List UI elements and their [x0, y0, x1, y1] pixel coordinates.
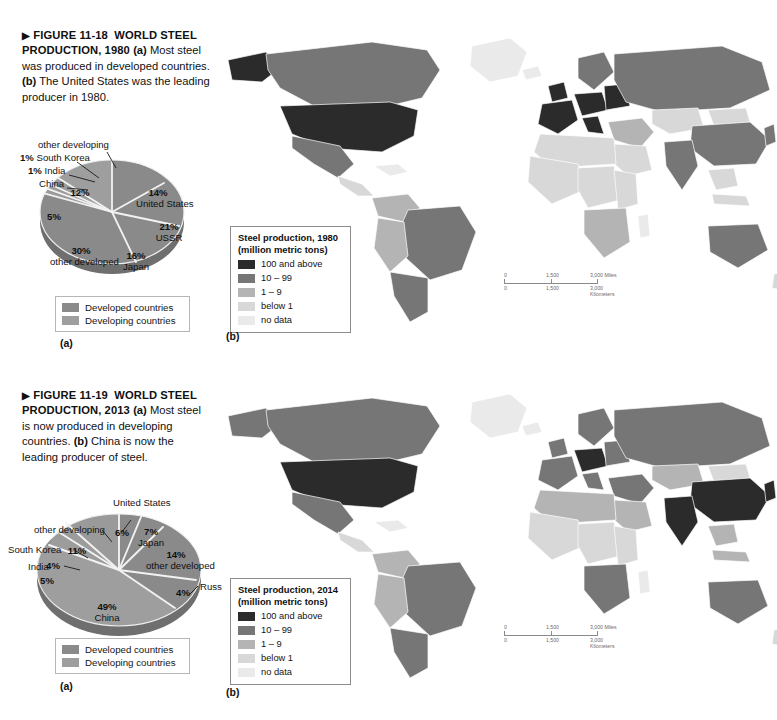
legend-swatch-below-1-icon: [238, 302, 255, 312]
map-legend-1980: Steel production, 1980 (million metric t…: [230, 226, 351, 333]
pie-leader-lines: [0, 130, 222, 240]
map-scalebar-2014: 0 1,500 3,000 Miles 0 1,500 3,000 Kilome…: [504, 624, 622, 644]
map-legend-title-line1: Steel production, 2014: [238, 584, 342, 596]
map-legend-label-3: below 1: [261, 300, 293, 312]
figure-11-18: ▶ FIGURE 11-18 WORLD STEEL PRODUCTION, 1…: [0, 0, 777, 360]
pie-legend-label-developing: Developing countries: [85, 657, 175, 668]
map-legend-row-no-data: no data: [238, 666, 342, 679]
pie-leader-lines: [0, 500, 222, 610]
pie-slice-label-japan: 16% Japan: [116, 251, 156, 272]
pie-legend-row-developing: Developing countries: [62, 314, 182, 327]
map-legend-row-100-and-above: 100 and above: [238, 258, 342, 271]
scalebar-miles-start: 0: [504, 272, 507, 278]
scalebar-miles-end: 3,000 Miles: [590, 624, 617, 630]
map-legend-label-2: 1 – 9: [261, 638, 282, 650]
legend-swatch-no-data-icon: [238, 668, 255, 678]
map-legend-title-line1: Steel production, 1980: [238, 232, 342, 244]
map-legend-label-3: below 1: [261, 652, 293, 664]
scalebar-km-end: 3,000 Kilometers: [590, 285, 622, 297]
map-legend-title-line2: (million metric tons): [238, 596, 342, 608]
pie-legend: Developed countries Developing countries: [55, 638, 190, 674]
pie-chart-2013: 6% 7% Japan 14% other developed 4% 49% C…: [0, 360, 222, 720]
pie-legend-label-developed: Developed countries: [85, 644, 173, 655]
legend-swatch-below-1-icon: [238, 654, 255, 664]
pie-legend-row-developing: Developing countries: [62, 656, 182, 669]
scalebar-km-end: 3,000 Kilometers: [590, 637, 622, 649]
scalebar-miles-end: 3,000 Miles: [590, 272, 617, 278]
pie-legend-row-developed: Developed countries: [62, 643, 182, 656]
map-legend-row-below-1: below 1: [238, 300, 342, 313]
map-legend-row-below-1: below 1: [238, 652, 342, 665]
legend-swatch-100-and-above-icon: [238, 260, 255, 270]
map-legend-label-0: 100 and above: [261, 258, 323, 270]
legend-swatch-10-99-icon: [238, 626, 255, 636]
subfigure-label-a: (a): [60, 337, 73, 349]
pie-legend: Developed countries Developing countries: [55, 296, 190, 332]
scalebar-km-mid: 1,500: [546, 637, 559, 643]
map-legend-label-2: 1 – 9: [261, 286, 282, 298]
subfigure-label-b: (b): [226, 330, 239, 342]
pie-chart-1980: 14% United States 21% USSR 16% Japan 30%…: [0, 0, 222, 360]
legend-swatch-1-9-icon: [238, 288, 255, 298]
scalebar-miles-mid: 1,500: [546, 272, 559, 278]
map-scalebar-1980: 0 1,500 3,000 Miles 0 1,500 3,000 Kilome…: [504, 272, 622, 292]
textbook-page: ▶ FIGURE 11-18 WORLD STEEL PRODUCTION, 1…: [0, 0, 777, 720]
legend-swatch-10-99-icon: [238, 274, 255, 284]
map-legend-label-4: no data: [261, 314, 292, 326]
world-map-1980: Steel production, 1980 (million metric t…: [222, 24, 777, 324]
map-legend-row-1-9: 1 – 9: [238, 286, 342, 299]
legend-swatch-100-and-above-icon: [238, 612, 255, 622]
map-legend-label-1: 10 – 99: [261, 624, 292, 636]
developing-swatch-icon: [62, 658, 79, 667]
scalebar-miles-mid: 1,500: [546, 624, 559, 630]
scalebar-km-start: 0: [504, 285, 507, 291]
map-legend-row-10-99: 10 – 99: [238, 272, 342, 285]
map-legend-row-1-9: 1 – 9: [238, 638, 342, 651]
pie-legend-label-developed: Developed countries: [85, 302, 173, 313]
scalebar-miles-start: 0: [504, 624, 507, 630]
pie-legend-row-developed: Developed countries: [62, 301, 182, 314]
scalebar-km-mid: 1,500: [546, 285, 559, 291]
developed-swatch-icon: [62, 303, 79, 312]
map-legend-label-1: 10 – 99: [261, 272, 292, 284]
scalebar-km-start: 0: [504, 637, 507, 643]
subfigure-label-b: (b): [226, 686, 239, 698]
pie-legend-label-developing: Developing countries: [85, 315, 175, 326]
developed-swatch-icon: [62, 645, 79, 654]
figure-11-19: ▶ FIGURE 11-19 WORLD STEEL PRODUCTION, 2…: [0, 360, 777, 720]
map-legend-row-100-and-above: 100 and above: [238, 610, 342, 623]
map-legend-title-line2: (million metric tons): [238, 244, 342, 256]
legend-swatch-1-9-icon: [238, 640, 255, 650]
map-legend-row-10-99: 10 – 99: [238, 624, 342, 637]
world-map-2013: Steel production, 2014 (million metric t…: [222, 380, 777, 680]
legend-swatch-no-data-icon: [238, 316, 255, 326]
developing-swatch-icon: [62, 316, 79, 325]
map-legend-label-0: 100 and above: [261, 610, 323, 622]
pie-slice-label-other-developed: 30% other developed: [50, 246, 112, 267]
map-legend-2014: Steel production, 2014 (million metric t…: [230, 578, 351, 685]
subfigure-label-a: (a): [60, 680, 73, 692]
map-legend-row-no-data: no data: [238, 314, 342, 327]
map-legend-label-4: no data: [261, 666, 292, 678]
